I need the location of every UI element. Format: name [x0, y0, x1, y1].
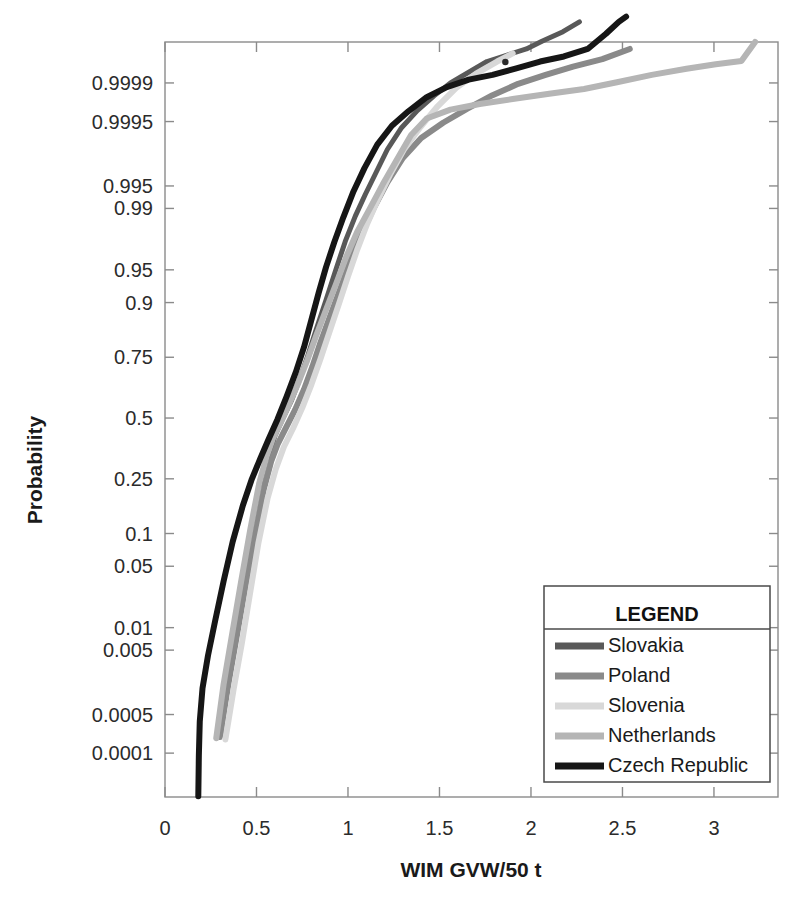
x-tick-label: 2	[525, 817, 536, 839]
y-tick-label: 0.99	[114, 197, 153, 219]
y-tick-label: 0.75	[114, 346, 153, 368]
series-line-slovakia	[221, 22, 580, 735]
y-tick-label: 0.05	[114, 555, 153, 577]
y-tick-label: 0.9	[125, 292, 153, 314]
legend-label-poland: Poland	[608, 664, 670, 686]
x-tick-label: 0	[159, 817, 170, 839]
legend-title: LEGEND	[615, 603, 698, 625]
x-tick-label: 1.5	[426, 817, 454, 839]
x-tick-label: 0.5	[243, 817, 271, 839]
legend-label-netherlands: Netherlands	[608, 724, 716, 746]
y-tick-label: 0.1	[125, 523, 153, 545]
x-axis-title: WIM GVW/50 t	[400, 858, 541, 881]
x-tick-label: 1	[342, 817, 353, 839]
y-tick-label: 0.01	[114, 617, 153, 639]
y-axis-tick-labels: 0.00010.00050.0050.010.050.10.250.50.750…	[92, 72, 153, 764]
x-tick-label: 3	[708, 817, 719, 839]
legend: LEGEND SlovakiaPolandSloveniaNetherlands…	[544, 586, 770, 782]
legend-label-slovenia: Slovenia	[608, 694, 686, 716]
x-tick-label: 2.5	[609, 817, 637, 839]
legend-label-slovakia: Slovakia	[608, 634, 684, 656]
y-tick-label: 0.95	[114, 259, 153, 281]
probability-plot-figure: 0.00010.00050.0050.010.050.10.250.50.750…	[0, 0, 812, 904]
y-tick-label: 0.9995	[92, 111, 153, 133]
chart-canvas: 0.00010.00050.0050.010.050.10.250.50.750…	[0, 0, 812, 904]
y-tick-label: 0.25	[114, 468, 153, 490]
y-tick-label: 0.0001	[92, 742, 153, 764]
figure-root: 0.00010.00050.0050.010.050.10.250.50.750…	[0, 0, 812, 904]
y-tick-label: 0.0005	[92, 704, 153, 726]
y-tick-label: 0.5	[125, 407, 153, 429]
y-tick-label: 0.9999	[92, 72, 153, 94]
y-tick-label: 0.005	[103, 639, 153, 661]
y-tick-label: 0.995	[103, 175, 153, 197]
y-axis-title: Probability	[23, 415, 46, 524]
stray-data-point	[502, 59, 508, 65]
x-axis-tick-labels: 00.511.522.53	[159, 817, 719, 839]
legend-label-czech-republic: Czech Republic	[608, 754, 748, 776]
